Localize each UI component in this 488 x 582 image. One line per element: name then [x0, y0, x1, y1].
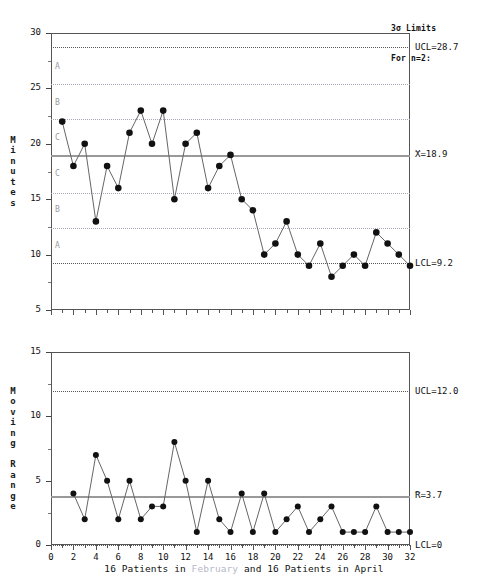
- data-point: 1: [362, 529, 368, 535]
- data-point: 1: [194, 529, 200, 535]
- caption-part-february: February: [192, 563, 239, 574]
- data-point: 2: [115, 516, 121, 522]
- data-point: 7: [93, 452, 99, 458]
- data-point: 1: [407, 529, 413, 535]
- data-point: 3: [149, 503, 155, 509]
- data-point: 4: [239, 491, 245, 497]
- data-point: 4: [70, 491, 76, 497]
- data-point: 1: [351, 529, 357, 535]
- data-point: 1: [272, 529, 278, 535]
- data-point: 3: [373, 503, 379, 509]
- data-point: 5: [183, 478, 189, 484]
- data-point: 1: [228, 529, 234, 535]
- control-chart-figure: 3σ Limits For n=2: 51015202530ABCCBAUCL=…: [0, 0, 488, 582]
- caption-part-3: and 16 Patients in April: [238, 563, 384, 574]
- data-point: 5: [205, 478, 211, 484]
- series-line: [73, 442, 410, 532]
- data-point: 1: [385, 529, 391, 535]
- chart2-series: 4275252338515214141231231113111: [0, 0, 488, 582]
- data-point: 1: [250, 529, 256, 535]
- data-point: 2: [317, 516, 323, 522]
- data-point: 3: [329, 503, 335, 509]
- data-point: 3: [295, 503, 301, 509]
- data-point: 2: [82, 516, 88, 522]
- x-axis-caption: 16 Patients in February and 16 Patients …: [0, 563, 488, 574]
- data-point: 3: [160, 503, 166, 509]
- data-point: 5: [127, 478, 133, 484]
- data-point: 8: [171, 439, 177, 445]
- data-point: 5: [104, 478, 110, 484]
- data-point: 1: [306, 529, 312, 535]
- data-point: 1: [340, 529, 346, 535]
- caption-part-1: 16 Patients in: [104, 563, 191, 574]
- data-point: 2: [216, 516, 222, 522]
- data-point: 1: [396, 529, 402, 535]
- data-point: 4: [261, 491, 267, 497]
- data-point: 2: [284, 516, 290, 522]
- data-point: 2: [138, 516, 144, 522]
